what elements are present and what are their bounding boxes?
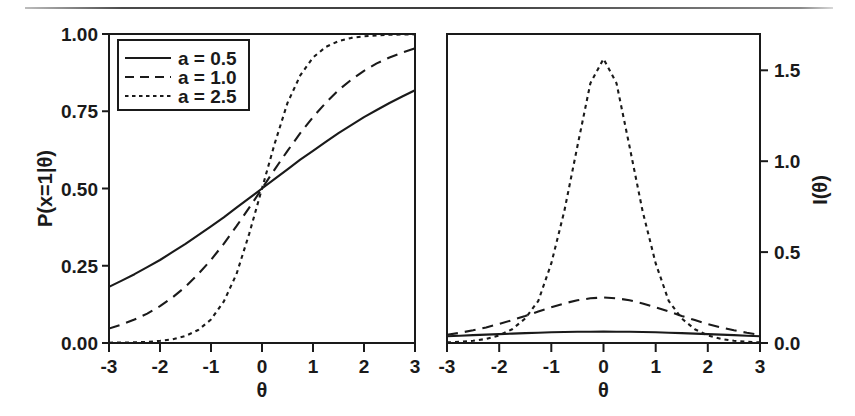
right-panel-information: 0.0 0.5 1.0 1.5 -3 -2 -1 0 1 2 3 θ — [439, 34, 831, 401]
left-panel-icc: 0.00 0.25 0.50 0.75 1.00 -3 -2 -1 0 1 2 … — [34, 24, 420, 401]
legend-label-a-1-0: a = 1.0 — [178, 67, 237, 88]
left-xtick-label-6: 3 — [410, 356, 421, 377]
left-ytick-label-4: 1.00 — [61, 24, 98, 45]
left-x-axis-title: θ — [257, 379, 268, 401]
right-xtick-label-0: -3 — [439, 356, 456, 377]
right-xtick-label-1: -2 — [491, 356, 508, 377]
right-ytick-label-0: 0.0 — [774, 333, 800, 354]
left-xtick-label-2: -1 — [203, 356, 220, 377]
right-ytick-label-3: 1.5 — [774, 60, 801, 81]
right-xtick-label-2: -1 — [543, 356, 560, 377]
right-x-axis-title: θ — [598, 379, 609, 401]
left-ytick-label-0: 0.00 — [61, 333, 98, 354]
left-ytick-label-1: 0.25 — [61, 256, 98, 277]
legend-label-a-0-5: a = 0.5 — [178, 48, 237, 69]
left-ytick-label-2: 0.50 — [61, 179, 98, 200]
left-xtick-label-4: 1 — [308, 356, 319, 377]
left-xtick-label-1: -2 — [152, 356, 169, 377]
figure-container: 0.00 0.25 0.50 0.75 1.00 -3 -2 -1 0 1 2 … — [0, 0, 855, 416]
legend-label-a-2-5: a = 2.5 — [178, 86, 237, 107]
info-curve-a-0-5 — [447, 332, 760, 337]
legend[interactable]: a = 0.5 a = 1.0 a = 2.5 — [118, 40, 249, 110]
right-plot-frame — [447, 34, 760, 343]
right-xtick-label-6: 3 — [755, 356, 766, 377]
two-panel-irt-figure: 0.00 0.25 0.50 0.75 1.00 -3 -2 -1 0 1 2 … — [0, 0, 855, 416]
right-y-axis-title: I(θ) — [809, 175, 831, 205]
left-xtick-label-5: 2 — [359, 356, 370, 377]
right-ytick-label-2: 1.0 — [774, 151, 800, 172]
right-curves-group — [447, 59, 760, 343]
right-y-ticks — [760, 70, 768, 343]
right-ytick-label-1: 0.5 — [774, 242, 801, 263]
right-xtick-label-3: 0 — [598, 356, 609, 377]
right-xtick-label-5: 2 — [703, 356, 714, 377]
left-xtick-label-3: 0 — [257, 356, 268, 377]
left-ytick-label-3: 0.75 — [61, 101, 98, 122]
left-y-ticks — [102, 34, 109, 343]
left-xtick-label-0: -3 — [101, 356, 118, 377]
left-y-axis-title: P(x=1|θ) — [34, 150, 56, 227]
right-x-ticks — [447, 343, 760, 352]
info-curve-a-2-5 — [447, 59, 760, 343]
right-xtick-label-4: 1 — [650, 356, 661, 377]
info-curve-a-1-0 — [447, 298, 760, 335]
left-x-ticks — [109, 343, 415, 352]
page-horizontal-rule — [25, 7, 833, 9]
